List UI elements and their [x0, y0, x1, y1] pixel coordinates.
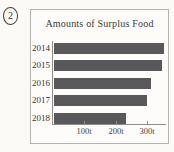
- y-axis-label-2018: 2018: [31, 112, 50, 125]
- question-number: 2: [8, 11, 13, 21]
- chart-frame: Amounts of Surplus Food 2014201520162017…: [30, 9, 169, 144]
- x-axis-tick-200t: [116, 121, 117, 124]
- x-axis-label-100t: 100t: [70, 127, 98, 136]
- y-axis-label-2015: 2015: [31, 59, 50, 72]
- x-axis-tick-300t: [147, 121, 148, 124]
- bar-2016: [54, 78, 151, 89]
- y-axis-label-2014: 2014: [31, 42, 50, 55]
- bar-2017: [54, 95, 147, 106]
- x-axis-label-300t: 300t: [133, 127, 161, 136]
- x-axis-tick-100t: [84, 121, 85, 124]
- y-axis-label-2017: 2017: [31, 94, 50, 107]
- question-number-badge: 2: [3, 7, 19, 26]
- y-axis-label-2016: 2016: [31, 77, 50, 90]
- bar-2015: [54, 60, 162, 71]
- bar-2014: [54, 43, 164, 54]
- x-axis-label-200t: 200t: [102, 127, 130, 136]
- worksheet-figure: 2 Amounts of Surplus Food 20142015201620…: [0, 0, 174, 152]
- plot-area: 20142015201620172018100t200t300t: [52, 41, 166, 125]
- chart-title: Amounts of Surplus Food: [31, 18, 168, 29]
